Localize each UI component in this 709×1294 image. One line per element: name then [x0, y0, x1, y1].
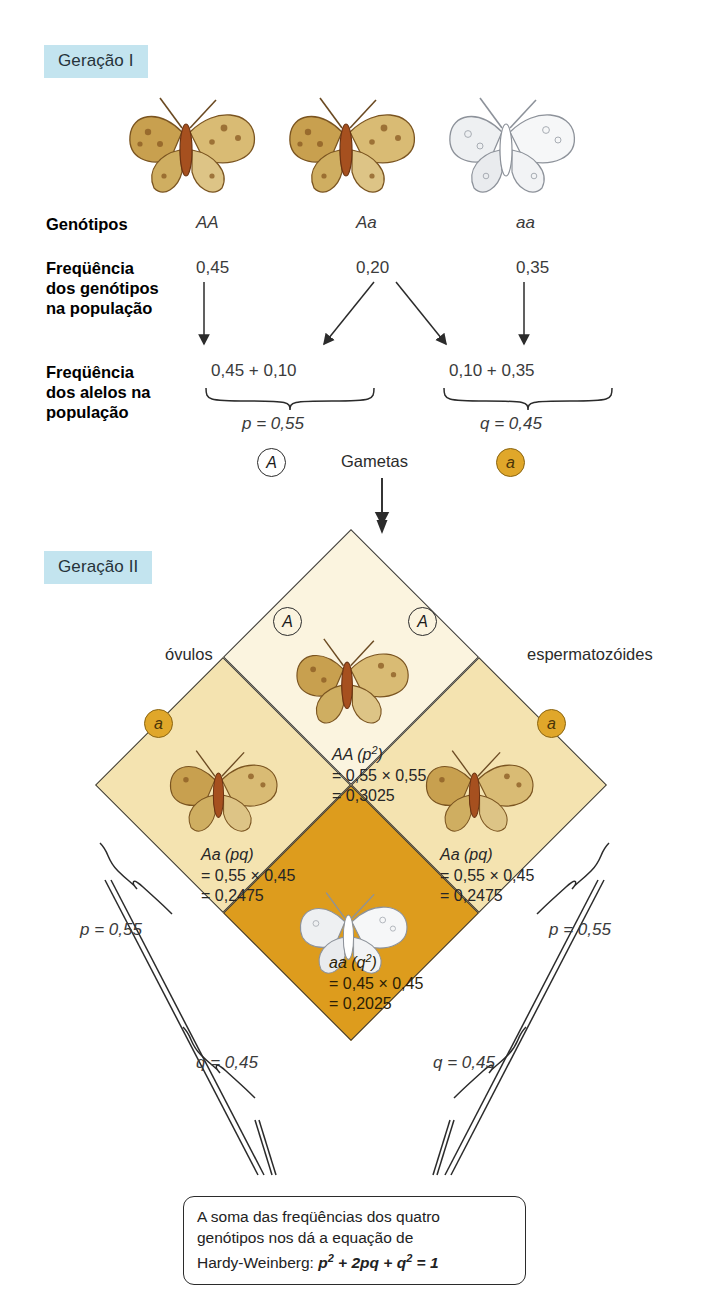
brace-q-right: q = 0,45: [433, 1053, 495, 1073]
generation-1-banner: Geração I: [44, 45, 148, 78]
frequency-AA: 0,45: [196, 258, 229, 278]
butterfly-AA-gen1: [120, 88, 272, 200]
hardy-weinberg-caption: A soma das freqüências dos quatro genóti…: [183, 1196, 526, 1285]
brace-p-right: p = 0,55: [549, 920, 611, 940]
butterfly-aa-gen1: [440, 88, 592, 200]
punnett-text-AA: AA (p2) = 0,55 × 0,55 = 0,3025: [332, 740, 426, 807]
genotype-AA: AA: [196, 213, 219, 233]
genotype-aa: aa: [516, 213, 535, 233]
label-allele-frequency: Freqüência dos alelos na população: [46, 362, 151, 422]
gen2-braces-and-leaders: [0, 820, 709, 1220]
hardy-weinberg-formula: p2 + 2pq + q2 = 1: [318, 1254, 438, 1271]
gen1-allele-arrows: [0, 280, 709, 370]
punnett-AA-line3: = 0,3025: [332, 786, 426, 807]
p-value-gen1: p = 0,55: [242, 414, 304, 434]
butterfly-AA-gen2: [288, 630, 424, 730]
gen1-braces: [200, 386, 580, 412]
generation-2-banner: Geração II: [44, 551, 152, 584]
label-genotypes: Genótipos: [46, 214, 128, 234]
q-value-gen1: q = 0,45: [480, 414, 542, 434]
genotype-Aa: Aa: [356, 213, 377, 233]
allele-badge-a-sperm: a: [537, 709, 566, 738]
gametes-label: Gametas: [341, 452, 408, 471]
allele-sum-left: 0,45 + 0,10: [211, 361, 297, 381]
frequency-aa: 0,35: [516, 258, 549, 278]
label-genotype-frequency-line1: Freqüência: [46, 258, 159, 278]
punnett-AA-line2: = 0,55 × 0,55: [332, 766, 426, 787]
allele-badge-a-gen1: a: [496, 448, 525, 477]
butterfly-Aa-gen1: [280, 88, 432, 200]
caption-line-1: A soma das freqüências dos quatro: [197, 1206, 512, 1227]
brace-q-left: q = 0,45: [196, 1053, 258, 1073]
caption-line-3-prefix: Hardy-Weinberg:: [197, 1254, 318, 1271]
ovules-label: óvulos: [165, 645, 213, 664]
brace-p-left: p = 0,55: [80, 920, 142, 940]
allele-sum-right: 0,10 + 0,35: [449, 361, 535, 381]
gametes-arrow: [370, 478, 394, 534]
allele-badge-a-ovules: a: [144, 709, 173, 738]
label-allele-frequency-line1: Freqüência: [46, 362, 151, 382]
punnett-AA-close: ): [378, 746, 383, 763]
punnett-AA-genotype: AA (p: [332, 746, 371, 763]
frequency-Aa: 0,20: [356, 258, 389, 278]
allele-badge-A-ovules: A: [273, 607, 302, 636]
sperm-label: espermatozóides: [527, 645, 653, 664]
label-allele-frequency-line2: dos alelos na: [46, 382, 151, 402]
label-allele-frequency-line3: população: [46, 402, 151, 422]
caption-line-2: genótipos nos dá a equação de: [197, 1227, 512, 1248]
allele-badge-A-sperm: A: [408, 607, 437, 636]
caption-line-3: Hardy-Weinberg: p2 + 2pq + q2 = 1: [197, 1248, 512, 1273]
allele-badge-A-gen1: A: [257, 448, 286, 477]
